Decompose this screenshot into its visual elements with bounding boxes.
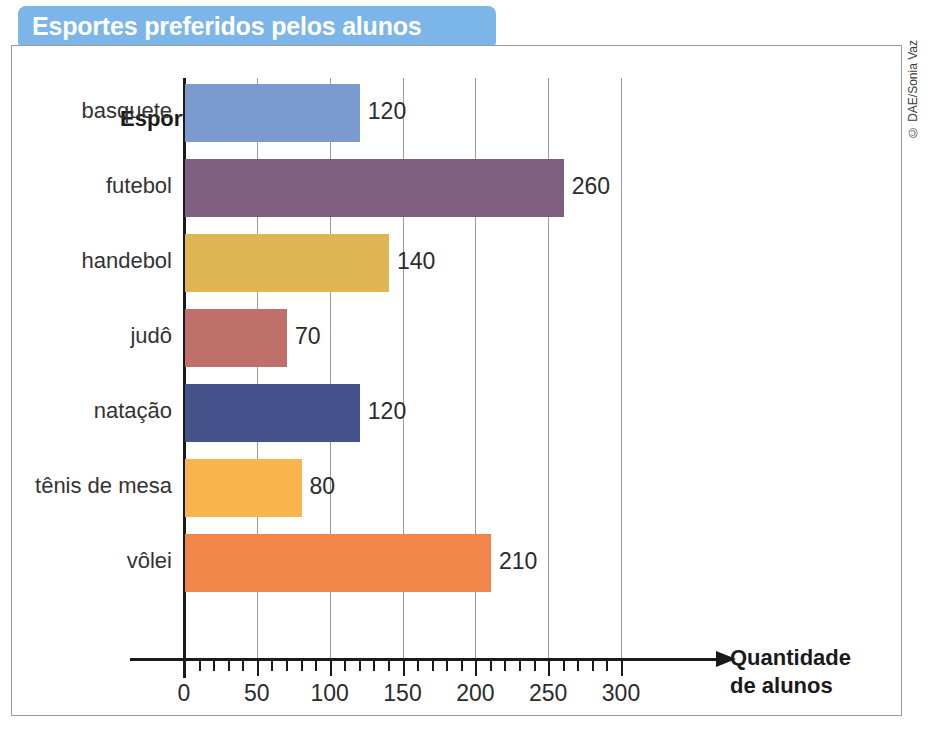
x-axis-minor-tick bbox=[446, 661, 448, 671]
chart-title-banner: Esportes preferidos pelos alunos bbox=[18, 6, 496, 46]
x-axis-tick-label: 100 bbox=[310, 680, 348, 707]
x-axis-major-tick bbox=[403, 661, 405, 676]
x-axis-minor-tick bbox=[315, 661, 317, 671]
x-axis-minor-tick bbox=[417, 661, 419, 671]
x-axis-tick-label: 50 bbox=[244, 680, 270, 707]
category-label: futebol bbox=[12, 173, 172, 199]
x-axis-title-line1: Quantidade bbox=[730, 644, 851, 672]
x-axis-tick-label: 150 bbox=[383, 680, 421, 707]
bar-value-label: 70 bbox=[295, 323, 321, 350]
x-axis-minor-tick bbox=[286, 661, 288, 671]
x-axis-minor-tick bbox=[534, 661, 536, 671]
x-axis-tick-label: 300 bbox=[602, 680, 640, 707]
category-label: handebol bbox=[12, 248, 172, 274]
x-axis-tick-label: 0 bbox=[178, 680, 191, 707]
x-axis-major-tick bbox=[621, 661, 623, 676]
x-axis-major-tick bbox=[184, 661, 186, 676]
x-axis-minor-tick bbox=[242, 661, 244, 671]
bar-value-label: 120 bbox=[368, 398, 406, 425]
x-axis-minor-tick bbox=[592, 661, 594, 671]
category-label: judô bbox=[12, 323, 172, 349]
x-axis-minor-tick bbox=[432, 661, 434, 671]
bar bbox=[185, 234, 389, 292]
bar-value-label: 80 bbox=[310, 473, 336, 500]
page-title: Esportes preferidos pelos alunos bbox=[18, 12, 422, 41]
x-axis-title-line2: de alunos bbox=[730, 672, 851, 700]
category-label: basquete bbox=[12, 98, 172, 124]
gridline bbox=[621, 78, 622, 658]
x-axis-minor-tick bbox=[301, 661, 303, 671]
bar-value-label: 260 bbox=[572, 173, 610, 200]
bar bbox=[185, 309, 287, 367]
plot-area: Esporte basquete120futebol260handebol140… bbox=[12, 46, 903, 717]
x-axis-minor-tick bbox=[359, 661, 361, 671]
x-axis-minor-tick bbox=[563, 661, 565, 671]
x-axis-line bbox=[130, 658, 720, 661]
x-axis-major-tick bbox=[548, 661, 550, 676]
category-label: tênis de mesa bbox=[12, 473, 172, 499]
x-axis-tick-label: 250 bbox=[529, 680, 567, 707]
x-axis-minor-tick bbox=[373, 661, 375, 671]
bar bbox=[185, 459, 302, 517]
x-axis-minor-tick bbox=[199, 661, 201, 671]
x-axis-tick-label: 200 bbox=[456, 680, 494, 707]
bar-value-label: 210 bbox=[499, 548, 537, 575]
x-axis-minor-tick bbox=[344, 661, 346, 671]
x-axis-minor-tick bbox=[461, 661, 463, 671]
bar-value-label: 120 bbox=[368, 98, 406, 125]
x-axis-major-tick bbox=[330, 661, 332, 676]
x-axis-major-tick bbox=[257, 661, 259, 676]
x-axis-minor-tick bbox=[504, 661, 506, 671]
x-axis-major-tick bbox=[475, 661, 477, 676]
category-label: vôlei bbox=[12, 548, 172, 574]
bar bbox=[185, 534, 491, 592]
x-axis-minor-tick bbox=[490, 661, 492, 671]
x-axis-minor-tick bbox=[577, 661, 579, 671]
x-axis-minor-tick bbox=[271, 661, 273, 671]
x-axis-minor-tick bbox=[228, 661, 230, 671]
x-axis-title: Quantidade de alunos bbox=[730, 644, 851, 699]
x-axis-minor-tick bbox=[388, 661, 390, 671]
category-label: natação bbox=[12, 398, 172, 424]
bar bbox=[185, 159, 564, 217]
credit-note: © DAE/Sonia Vaz bbox=[906, 40, 926, 139]
bar bbox=[185, 384, 360, 442]
x-axis-minor-tick bbox=[606, 661, 608, 671]
chart-frame: Esporte basquete120futebol260handebol140… bbox=[11, 45, 902, 716]
bar bbox=[185, 84, 360, 142]
bar-value-label: 140 bbox=[397, 248, 435, 275]
x-axis-minor-tick bbox=[519, 661, 521, 671]
x-axis-minor-tick bbox=[213, 661, 215, 671]
